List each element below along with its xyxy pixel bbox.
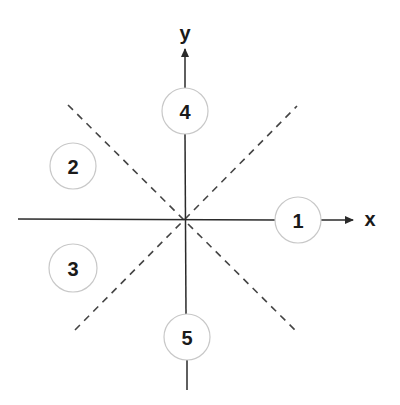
region-5-label: 5 <box>181 327 192 349</box>
dashed-diagonal-descending <box>68 105 297 332</box>
x-axis-label: x <box>364 208 375 230</box>
y-axis-label: y <box>179 22 191 44</box>
region-4-label: 4 <box>179 101 191 123</box>
region-3-label: 3 <box>67 258 78 280</box>
region-1-label: 1 <box>292 210 303 232</box>
region-5: 5 <box>164 314 210 360</box>
region-4: 4 <box>162 88 208 134</box>
region-2: 2 <box>50 143 96 189</box>
region-2-label: 2 <box>67 156 78 178</box>
y-axis <box>185 134 186 314</box>
x-axis <box>18 219 275 220</box>
coordinate-diagram: y x 1 2 3 4 5 <box>0 0 400 405</box>
region-3: 3 <box>49 244 97 292</box>
region-1: 1 <box>275 197 321 243</box>
